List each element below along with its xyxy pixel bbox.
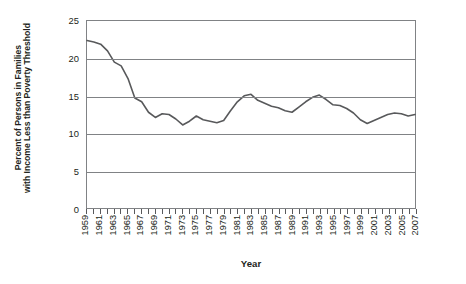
series-line — [87, 21, 415, 208]
x-axis-tick-label: 1997 — [343, 215, 352, 235]
x-axis-tick — [162, 209, 163, 214]
x-axis-tick — [237, 209, 238, 214]
x-axis-tick — [217, 209, 218, 214]
x-axis-tick-label: 1961 — [95, 215, 104, 235]
x-axis-tick — [175, 209, 176, 214]
x-axis-tick — [265, 209, 266, 214]
poverty-rate-line-chart: Percent of Persons in Families with Inco… — [0, 0, 466, 284]
x-axis-tick — [114, 209, 115, 214]
x-axis-tick — [182, 209, 183, 214]
x-axis-tick-label: 1985 — [260, 215, 269, 235]
x-axis-tick-label: 1975 — [191, 215, 200, 235]
x-axis-tick-label: 1963 — [109, 215, 118, 235]
x-axis-tick — [244, 209, 245, 214]
x-axis-tick — [230, 209, 231, 214]
x-axis-tick — [107, 209, 108, 214]
x-axis-tick — [306, 209, 307, 214]
x-axis-tick-label: 1995 — [329, 215, 338, 235]
x-axis-tick — [375, 209, 376, 214]
plot-area — [86, 20, 416, 209]
x-axis-tick-label: 2007 — [411, 215, 420, 235]
x-axis-tick — [389, 209, 390, 214]
x-axis-tick — [141, 209, 142, 214]
x-axis-tick — [210, 209, 211, 214]
x-axis-tick-label: 1993 — [315, 215, 324, 235]
x-axis-tick-label: 2003 — [384, 215, 393, 235]
x-axis-tick — [347, 209, 348, 214]
x-axis-tick-label: 1979 — [219, 215, 228, 235]
x-axis-tick — [334, 209, 335, 214]
x-axis-tick-label: 1981 — [233, 215, 242, 235]
x-axis-tick — [272, 209, 273, 214]
x-axis-tick — [196, 209, 197, 214]
x-axis-tick-label: 1983 — [246, 215, 255, 235]
y-axis-tick-labels: 0510152025 — [46, 0, 84, 215]
x-axis-tick-label: 1977 — [205, 215, 214, 235]
x-axis-tick-label: 1959 — [81, 215, 90, 235]
x-axis-tick-label: 1989 — [288, 215, 297, 235]
x-axis-tick — [327, 209, 328, 214]
x-axis-tick — [368, 209, 369, 214]
x-axis-tick — [120, 209, 121, 214]
x-axis-tick — [320, 209, 321, 214]
x-axis-tick — [86, 209, 87, 214]
y-axis-tick-label: 15 — [69, 90, 79, 101]
x-axis-tick — [299, 209, 300, 214]
x-axis-tick — [251, 209, 252, 214]
gridline — [87, 172, 415, 173]
x-axis-tick — [134, 209, 135, 214]
x-axis-ticks — [86, 209, 416, 214]
x-axis-tick — [354, 209, 355, 214]
x-axis-tick — [148, 209, 149, 214]
x-axis-tick — [402, 209, 403, 214]
x-axis-tick-labels: 1959196119631965196719691971197319751977… — [86, 215, 416, 255]
x-axis-tick — [416, 209, 417, 214]
x-axis-tick — [224, 209, 225, 214]
x-axis-tick — [155, 209, 156, 214]
gridline — [87, 97, 415, 98]
x-axis-tick-label: 1973 — [178, 215, 187, 235]
y-axis-title: Percent of Persons in Families with Inco… — [0, 0, 46, 215]
x-axis-tick — [395, 209, 396, 214]
x-axis-tick-label: 2005 — [398, 215, 407, 235]
x-axis-tick — [189, 209, 190, 214]
x-axis-tick-label: 2001 — [370, 215, 379, 235]
x-axis-tick — [203, 209, 204, 214]
y-axis-tick-label: 20 — [69, 52, 79, 63]
x-axis-tick — [127, 209, 128, 214]
x-axis-tick — [382, 209, 383, 214]
gridline — [87, 134, 415, 135]
y-axis-title-line-2: with Income Less than Poverty Threshold — [23, 23, 32, 193]
x-axis-tick — [340, 209, 341, 214]
x-axis-tick — [279, 209, 280, 214]
x-axis-tick — [93, 209, 94, 214]
x-axis-tick-label: 1969 — [150, 215, 159, 235]
x-axis-tick — [100, 209, 101, 214]
x-axis-tick — [409, 209, 410, 214]
gridline — [87, 59, 415, 60]
x-axis-tick-label: 1987 — [274, 215, 283, 235]
y-axis-tick-label: 0 — [74, 204, 79, 215]
x-axis-tick-label: 1999 — [356, 215, 365, 235]
y-axis-tick-label: 10 — [69, 128, 79, 139]
x-axis-tick-label: 1991 — [301, 215, 310, 235]
y-axis-tick-label: 5 — [74, 166, 79, 177]
x-axis-tick — [292, 209, 293, 214]
x-axis-tick — [285, 209, 286, 214]
x-axis-tick-label: 1971 — [164, 215, 173, 235]
x-axis-tick — [258, 209, 259, 214]
x-axis-tick — [313, 209, 314, 214]
x-axis-tick-label: 1965 — [123, 215, 132, 235]
x-axis-title: Year — [86, 258, 416, 269]
x-axis-tick — [361, 209, 362, 214]
y-axis-tick-label: 25 — [69, 15, 79, 26]
x-axis-tick-label: 1967 — [136, 215, 145, 235]
x-axis-tick — [169, 209, 170, 214]
